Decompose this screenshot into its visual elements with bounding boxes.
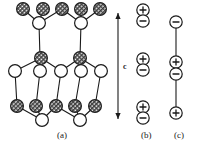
open-atom: [55, 65, 68, 78]
hatched-atom-crosshatch: [74, 52, 87, 65]
panel-caption-c: (c): [174, 130, 184, 140]
crystal-structure-figure: [0, 0, 197, 145]
hatched-atom-crosshatch: [56, 3, 69, 16]
hatched-atom-crosshatch: [75, 3, 88, 16]
panel-b-charge: [137, 64, 149, 76]
open-atom: [9, 65, 22, 78]
panel-b-charge: [137, 15, 149, 27]
panel-caption-b: (b): [141, 130, 152, 140]
open-atom: [74, 114, 87, 127]
panel-c-charge: [170, 68, 182, 80]
panel-c-charge: [170, 107, 182, 119]
hatched-atom-crosshatch: [94, 3, 107, 16]
open-atom: [34, 65, 47, 78]
hatched-atom-crosshatch: [50, 100, 63, 113]
open-atom: [33, 17, 46, 30]
open-atom: [75, 17, 88, 30]
c-axis-label: c: [123, 62, 127, 71]
panel-c-charge: [170, 56, 182, 68]
panel-b-charge-circles: [137, 4, 149, 124]
panel-b-charge: [137, 112, 149, 124]
hatched-atom-crosshatch: [30, 100, 43, 113]
panel-c-charge: [170, 16, 182, 28]
hatched-atom-crosshatch: [89, 100, 102, 113]
open-atom: [75, 65, 88, 78]
open-atom: [36, 114, 49, 127]
panel-caption-a: (a): [57, 130, 67, 140]
hatched-atom-crosshatch: [69, 100, 82, 113]
hatched-atom-crosshatch: [17, 3, 30, 16]
open-atom: [95, 65, 108, 78]
hatched-atom-crosshatch: [11, 100, 24, 113]
hatched-atom-crosshatch: [37, 3, 50, 16]
hatched-atom-crosshatch: [35, 52, 48, 65]
